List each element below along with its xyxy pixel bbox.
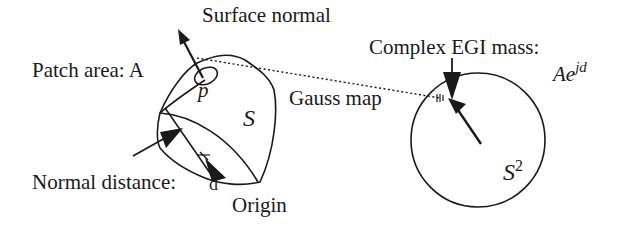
surface-shape — [157, 55, 275, 184]
egi-mass-arrow — [443, 58, 461, 100]
egi-diagram: d Surface normal Patch area: A p S Gauss… — [0, 0, 637, 238]
svg-text:d: d — [209, 174, 218, 194]
complex-egi-mass-label: Complex EGI mass: — [369, 37, 539, 58]
origin-label: Origin — [232, 195, 287, 216]
sphere-base: S — [503, 159, 515, 185]
patch-area-label: Patch area: A — [32, 60, 144, 81]
normal-distance-arrow-origin: d — [198, 152, 226, 194]
patch-point-label: p — [198, 80, 209, 101]
egi-mass-formula: Aejd — [553, 64, 587, 85]
sphere-label: S2 — [503, 160, 523, 184]
egi-mass-exponent: jd — [575, 59, 587, 75]
surface-name-label: S — [243, 106, 255, 130]
gauss-map-label: Gauss map — [289, 88, 382, 109]
sphere-normal-arrow — [448, 98, 481, 144]
diagram-graphics: d — [0, 0, 637, 238]
normal-distance-label: Normal distance: — [32, 172, 176, 193]
surface-normal-label: Surface normal — [202, 5, 331, 26]
surface-normal-arrow — [178, 29, 203, 78]
egi-mass-base: Ae — [553, 62, 575, 86]
sphere-exponent: 2 — [515, 157, 523, 174]
normal-distance-text: Normal distance: — [32, 170, 176, 194]
